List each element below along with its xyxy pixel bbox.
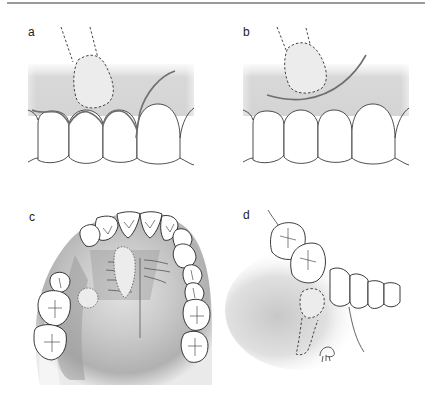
figure-canvas	[0, 0, 430, 399]
panel-a	[28, 27, 194, 165]
anterior-teeth	[243, 104, 409, 165]
impacted-premolar-outline	[78, 288, 98, 308]
panel-d	[225, 210, 400, 370]
panel-c	[34, 212, 212, 385]
panel-b	[243, 27, 409, 165]
